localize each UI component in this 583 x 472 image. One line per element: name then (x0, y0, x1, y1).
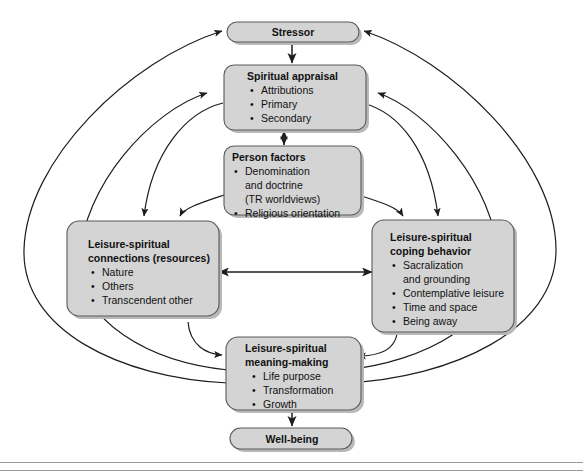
bullet-glyph: • (91, 280, 95, 292)
meaning-making-bullet-0: Life purpose (263, 370, 321, 382)
bullet-glyph: • (91, 294, 95, 306)
arrow-personfactors-to-connections (180, 195, 224, 216)
spiritual-appraisal-bullet-2: Secondary (261, 112, 312, 124)
bullet-glyph: • (392, 301, 396, 313)
bullet-glyph: • (250, 98, 254, 110)
arrow-meaning-to-stressor-left (24, 31, 228, 383)
node-leisure-spiritual-meaning-making[interactable]: Leisure-spiritual meaning-making • Life … (226, 337, 364, 413)
meaning-making-bullet-1: Transformation (263, 384, 333, 396)
coping-bullet-3: Time and space (403, 301, 477, 313)
spiritual-appraisal-bullet-1: Primary (261, 98, 298, 110)
coping-bullet-1: and grounding (403, 273, 470, 285)
node-well-being[interactable]: Well-being (230, 428, 355, 452)
flow-diagram: Stressor Spiritual appraisal • Attributi… (0, 0, 583, 472)
coping-bullet-4: Being away (403, 315, 458, 327)
coping-bullet-0: Sacralization (403, 259, 463, 271)
stressor-label: Stressor (272, 26, 315, 38)
connections-bullet-1: Others (102, 280, 134, 292)
spiritual-appraisal-bullet-0: Attributions (261, 84, 314, 96)
node-leisure-spiritual-connections[interactable]: Leisure-spiritual connections (resources… (67, 221, 222, 319)
person-factors-title: Person factors (232, 151, 306, 163)
node-leisure-spiritual-coping-behavior[interactable]: Leisure-spiritual coping behavior • Sacr… (372, 220, 517, 335)
coping-title-line1: Leisure-spiritual (390, 231, 472, 243)
bullet-glyph: • (392, 287, 396, 299)
bullet-glyph: • (392, 315, 396, 327)
bullet-glyph: • (252, 398, 256, 410)
person-factors-bullet-1: and doctrine (245, 179, 303, 191)
figure-container: Stressor Spiritual appraisal • Attributi… (0, 0, 583, 472)
arrow-connections-to-meaning (188, 322, 222, 355)
bullet-glyph: • (250, 84, 254, 96)
meaning-making-title-line1: Leisure-spiritual (245, 342, 327, 354)
bullet-glyph: • (252, 384, 256, 396)
footer-divider-top (0, 462, 583, 463)
person-factors-bullet-3: Religious orientation (245, 207, 340, 219)
node-stressor[interactable]: Stressor (227, 22, 362, 45)
well-being-label: Well-being (266, 433, 319, 445)
bullet-glyph: • (392, 259, 396, 271)
bullet-glyph: • (234, 207, 238, 219)
node-person-factors[interactable]: Person factors • Denomination and doctri… (224, 146, 364, 219)
connections-bullet-0: Nature (102, 266, 134, 278)
meaning-making-title-line2: meaning-making (245, 356, 328, 368)
bullet-glyph: • (252, 370, 256, 382)
footer-divider-bottom (0, 470, 583, 471)
coping-title-line2: coping behavior (390, 245, 471, 257)
bullet-glyph: • (91, 266, 95, 278)
arrow-personfactors-to-coping (358, 195, 403, 216)
connections-title-line1: Leisure-spiritual (88, 238, 170, 250)
arrow-appraisal-to-coping (362, 103, 438, 216)
node-spiritual-appraisal[interactable]: Spiritual appraisal • Attributions • Pri… (224, 65, 369, 133)
coping-bullet-2: Contemplative leisure (403, 287, 504, 299)
bullet-glyph: • (250, 112, 254, 124)
person-factors-bullet-0: Denomination (245, 165, 310, 177)
bullet-glyph: • (234, 165, 238, 177)
connections-bullet-2: Transcendent other (102, 294, 193, 306)
spiritual-appraisal-title: Spiritual appraisal (247, 70, 338, 82)
connections-title-line2: connections (resources) (88, 252, 210, 264)
meaning-making-bullet-2: Growth (263, 398, 297, 410)
person-factors-bullet-2: (TR worldviews) (245, 193, 320, 205)
